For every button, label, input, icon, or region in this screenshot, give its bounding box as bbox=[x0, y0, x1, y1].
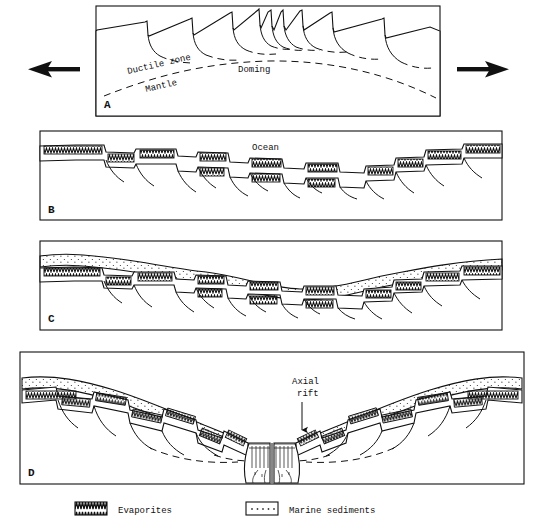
doming-label: Doming bbox=[238, 65, 270, 75]
panel-d: Axial rift D bbox=[20, 352, 524, 484]
legend-evaporites-swatch bbox=[75, 502, 107, 515]
legend-marine-sediments: Marine sediments bbox=[246, 502, 375, 516]
panel-d-letter: D bbox=[28, 467, 35, 479]
axial-rift-label-line2: rift bbox=[297, 389, 319, 399]
legend: Evaporites Marine sediments bbox=[75, 502, 375, 516]
legend-marine-sediments-label: Marine sediments bbox=[289, 506, 375, 516]
panel-a-letter: A bbox=[104, 99, 111, 111]
axial-rift-label-line1: Axial bbox=[292, 377, 319, 387]
panel-c: C bbox=[40, 241, 502, 330]
panel-c-letter: C bbox=[48, 313, 55, 325]
axial-dike-left bbox=[245, 443, 270, 483]
panel-a: Ductile zone Doming Mantle A bbox=[28, 6, 509, 116]
figure-root: Ductile zone Doming Mantle A bbox=[0, 0, 545, 528]
ocean-label: Ocean bbox=[252, 143, 279, 153]
geological-cross-section-figure: Ductile zone Doming Mantle A bbox=[0, 0, 545, 528]
legend-evaporites: Evaporites bbox=[75, 502, 172, 516]
axial-dike-right bbox=[274, 443, 299, 483]
extension-arrow-right bbox=[457, 61, 509, 77]
panel-b-letter: B bbox=[48, 204, 55, 216]
legend-marine-sediments-swatch bbox=[246, 502, 278, 515]
legend-evaporites-label: Evaporites bbox=[118, 506, 172, 516]
extension-arrow-left bbox=[28, 61, 80, 77]
panel-b: Ocean B bbox=[40, 131, 502, 220]
axial-rift-structure bbox=[245, 443, 300, 483]
